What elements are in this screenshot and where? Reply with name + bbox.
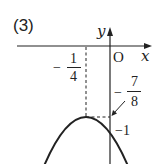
y-intercept-label: −1 [115, 123, 130, 138]
leader-line [114, 101, 125, 113]
origin-label: O [113, 49, 124, 65]
vertex-y-sign: − [114, 85, 122, 100]
problem-label: (3) [13, 16, 34, 35]
vertex-x-denominator: 4 [70, 69, 77, 84]
vertex-y-denominator: 8 [131, 94, 138, 109]
vertex-x-label: − 1 4 [53, 51, 81, 84]
vertex-y-label: − 7 8 [114, 74, 141, 109]
graph: (3) y O x − 1 4 − 7 8 −1 [0, 0, 160, 164]
vertex-x-sign: − [53, 60, 61, 75]
vertex-x-numerator: 1 [70, 51, 77, 66]
y-axis-label: y [96, 22, 106, 40]
x-axis-label: x [141, 47, 150, 65]
y-axis-arrow-icon [107, 27, 113, 36]
vertex-y-numerator: 7 [131, 74, 138, 89]
